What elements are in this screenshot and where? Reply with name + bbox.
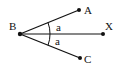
point-b: [18, 32, 22, 36]
angle-arc-upper: [48, 23, 50, 34]
angle-label-lower: a: [55, 35, 60, 47]
label-x: X: [105, 20, 113, 32]
label-b: B: [9, 20, 16, 32]
label-c: C: [84, 53, 91, 65]
label-a: A: [84, 4, 92, 16]
point-x: [101, 32, 105, 36]
angle-label-upper: a: [56, 21, 61, 33]
point-a: [77, 8, 81, 12]
angle-diagram: B A X C a a: [0, 0, 130, 66]
angle-arc-lower: [48, 34, 50, 45]
point-c: [78, 56, 82, 60]
